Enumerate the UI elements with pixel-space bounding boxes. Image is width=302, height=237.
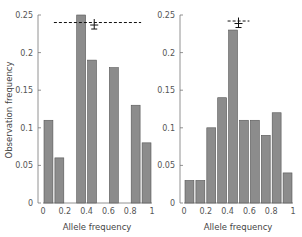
- x-tick-label: 0.4: [80, 207, 93, 216]
- histogram-bar: [185, 180, 194, 203]
- y-tick-label: 0.2: [162, 49, 175, 58]
- histogram-bar: [229, 30, 238, 203]
- x-tick-label: 0.8: [124, 207, 137, 216]
- histogram-bar: [283, 173, 292, 203]
- histogram-bar: [55, 158, 64, 203]
- histogram-bar: [196, 180, 205, 203]
- y-tick-label: 0.25: [15, 11, 33, 20]
- x-tick-label: 1: [290, 207, 295, 216]
- y-tick-label: 0.05: [15, 161, 33, 170]
- y-tick-label: 0.2: [20, 49, 33, 58]
- y-tick-label: 0: [28, 199, 33, 208]
- histogram-bar: [44, 120, 53, 203]
- histogram-bar: [109, 68, 118, 203]
- histogram-bar: [240, 120, 249, 203]
- y-tick-label: 0.05: [157, 161, 175, 170]
- y-axis-title: Observation frequency: [4, 61, 14, 158]
- y-tick-label: 0.15: [157, 86, 175, 95]
- y-tick-label: 0.15: [15, 86, 33, 95]
- y-tick-label: 0.1: [162, 124, 175, 133]
- x-tick-label: 0.4: [221, 207, 234, 216]
- y-tick-label: 0: [170, 199, 175, 208]
- x-tick-label: 0.6: [102, 207, 115, 216]
- histogram-bar: [77, 15, 86, 203]
- x-tick-label: 0: [40, 207, 45, 216]
- x-tick-label: 0: [181, 207, 186, 216]
- x-tick-label: 1: [149, 207, 154, 216]
- histogram-bar: [142, 143, 151, 203]
- x-tick-label: 0.2: [199, 207, 212, 216]
- histogram-bar: [272, 113, 281, 203]
- histogram-bar: [207, 128, 216, 203]
- histogram-bar: [250, 120, 259, 203]
- x-tick-label: 0.6: [243, 207, 256, 216]
- histogram-bar: [131, 105, 140, 203]
- y-tick-label: 0.25: [157, 11, 175, 20]
- left-histogram-panel: 00.050.10.150.20.2500.20.40.60.81: [15, 11, 154, 216]
- allele-frequency-histograms: Observation frequency 00.050.10.150.20.2…: [0, 0, 302, 237]
- right-histogram-panel: 00.050.10.150.20.2500.20.40.60.81: [157, 11, 295, 216]
- histogram-bar: [261, 135, 270, 203]
- histogram-bar: [218, 98, 227, 203]
- histogram-bar: [88, 60, 97, 203]
- x-axis-title-right: Allele frequency: [204, 222, 273, 232]
- x-tick-label: 0.8: [265, 207, 278, 216]
- x-tick-label: 0.2: [58, 207, 71, 216]
- x-axis-title-left: Allele frequency: [63, 222, 132, 232]
- y-tick-label: 0.1: [20, 124, 33, 133]
